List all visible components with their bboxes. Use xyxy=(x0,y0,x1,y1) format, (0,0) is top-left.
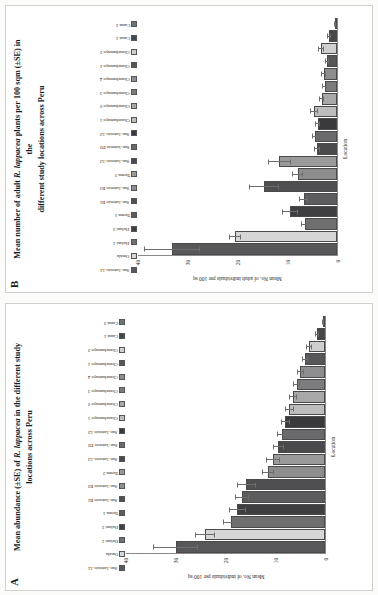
legend-item: Canat 1 xyxy=(104,329,125,342)
legend-swatch-icon xyxy=(119,482,125,488)
bar-column xyxy=(126,366,325,378)
bar xyxy=(289,403,324,415)
bar-column xyxy=(138,180,337,192)
error-bar-cap-top xyxy=(325,58,326,63)
error-bar-cap-top xyxy=(195,532,196,537)
error-bar-cap-bottom xyxy=(296,394,297,399)
error-bar-stem xyxy=(195,534,215,535)
bar xyxy=(298,168,337,180)
legend-item-label: San Antonio A2 xyxy=(100,131,129,136)
legend-item-label: San Antonio D2 xyxy=(100,144,130,149)
error-bar-cap-bottom xyxy=(240,234,241,239)
panel-b-slot: B Mean number of adult R. lappacea plant… xyxy=(0,0,378,297)
error-bar-cap-bottom xyxy=(317,108,318,113)
panel-b-x-axis-label: Location xyxy=(342,12,348,286)
error-bar-cap-top xyxy=(310,108,311,113)
bar xyxy=(318,118,337,130)
legend-item-label: Omala xyxy=(117,253,129,258)
y-axis-tick-label: 10 xyxy=(273,558,279,563)
bar-column xyxy=(126,416,325,428)
legend-item: Chanchamayo 2 xyxy=(100,45,137,58)
error-bar xyxy=(277,431,287,436)
error-bar-cap-bottom xyxy=(245,507,246,512)
error-bar-cap-top xyxy=(268,159,269,164)
error-bar-cap-bottom xyxy=(197,544,198,549)
error-bar xyxy=(310,108,318,113)
legend-swatch-icon xyxy=(119,510,125,516)
error-bar xyxy=(314,146,320,151)
legend-item-label: Canat 1 xyxy=(104,333,118,338)
error-bar-cap-top xyxy=(223,519,224,524)
y-axis-tick-label: 20 xyxy=(235,260,241,265)
error-bar-cap-top xyxy=(289,394,290,399)
error-bar xyxy=(273,444,284,449)
y-axis-tick-label: 40 xyxy=(123,558,129,563)
legend-swatch-icon xyxy=(131,130,137,136)
error-bar-cap-bottom xyxy=(318,331,319,336)
error-bar xyxy=(301,221,309,226)
legend-item: Chanchamayo 3 xyxy=(88,384,125,397)
y-axis-tick-label: 40 xyxy=(135,260,141,265)
bar-column xyxy=(126,466,325,478)
error-bar-cap-top xyxy=(282,209,283,214)
error-bar-stem xyxy=(237,484,256,485)
legend-swatch-icon xyxy=(131,48,137,54)
error-bar xyxy=(293,381,300,386)
legend-item-label: Canat 2 xyxy=(116,22,130,27)
legend-item: Chanchamayo 4 xyxy=(88,370,125,383)
legend-item: Chanchamayo 5 xyxy=(100,113,137,126)
error-bar xyxy=(321,71,326,76)
legend-item-label: San Antonio B3 xyxy=(100,185,129,190)
panel-a-slot: A Mean abundance (±SE) of R. lappacea in… xyxy=(0,298,378,595)
legend-item-label: Tarma 2 xyxy=(115,171,130,176)
legend-item-label: Tarma 2 xyxy=(103,469,118,474)
legend-swatch-icon xyxy=(119,551,125,557)
panel-a-title: Mean abundance (±SE) of R. lappacea in t… xyxy=(12,336,36,558)
legend-item: San Antonio A1 xyxy=(88,561,124,574)
y-axis-tick-label: 20 xyxy=(223,558,229,563)
error-bar-cap-bottom xyxy=(307,356,308,361)
error-bar-cap-top xyxy=(273,444,274,449)
error-bar-stem xyxy=(266,459,280,460)
legend-swatch-icon xyxy=(131,75,137,81)
legend-swatch-icon xyxy=(119,360,125,366)
legend-item: Chanchamayo 6 xyxy=(88,397,125,410)
error-bar-stem xyxy=(235,496,249,497)
error-bar-cap-top xyxy=(266,457,267,462)
legend-swatch-icon xyxy=(131,171,137,177)
error-bar xyxy=(297,369,304,374)
error-bar-cap-top xyxy=(229,507,230,512)
error-bar xyxy=(289,394,297,399)
bar-column xyxy=(126,453,325,465)
error-bar xyxy=(153,544,199,549)
panel-a-plot: Mean No. of individuals per 100 sq 01020… xyxy=(126,316,326,554)
legend-swatch-icon xyxy=(131,198,137,204)
error-bar xyxy=(292,171,303,176)
legend-swatch-icon xyxy=(119,564,125,570)
error-bar-cap-top xyxy=(297,369,298,374)
bar-column xyxy=(138,230,337,242)
error-bar-stem xyxy=(153,546,199,547)
legend-swatch-icon xyxy=(119,401,125,407)
bar xyxy=(237,503,325,515)
legend-swatch-icon xyxy=(131,62,137,68)
error-bar xyxy=(334,21,336,26)
error-bar-cap-top xyxy=(249,184,250,189)
legend-item-label: Chanchamayo 3 xyxy=(88,388,118,393)
bar-column xyxy=(138,17,337,29)
error-bar-cap-bottom xyxy=(248,494,249,499)
legend-item-label: San Antonio D2 xyxy=(88,442,118,447)
legend-item: Tarma 1 xyxy=(115,208,137,221)
error-bar-stem xyxy=(223,521,239,522)
bar-column xyxy=(126,528,325,540)
panel-b-plot: Mean No. of adult individuals per 100 sq… xyxy=(138,18,338,256)
legend-item: Tarma 1 xyxy=(103,506,125,519)
error-bar xyxy=(282,209,298,214)
legend-swatch-icon xyxy=(131,212,137,218)
error-bar xyxy=(266,457,280,462)
bar-column xyxy=(138,30,337,42)
error-bar-cap-top xyxy=(229,234,230,239)
error-bar-cap-top xyxy=(301,221,302,226)
error-bar-cap-bottom xyxy=(286,431,287,436)
bar-column xyxy=(126,503,325,515)
